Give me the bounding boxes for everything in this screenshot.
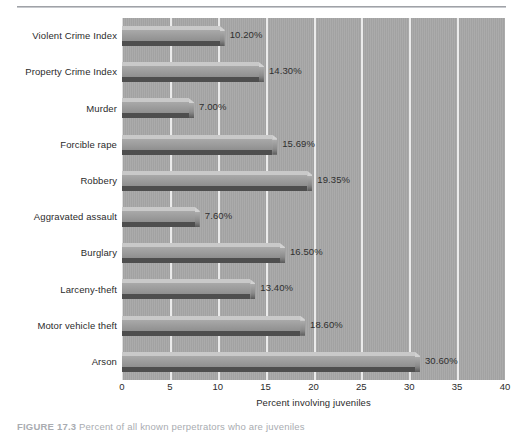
bar-row: 14.30%: [122, 54, 505, 90]
figure-caption-text: Percent of all known perpetrators who ar…: [79, 421, 305, 432]
bar[interactable]: [122, 62, 259, 82]
bar-row: 16.50%: [122, 235, 505, 271]
bar-value-label: 30.60%: [425, 355, 458, 366]
bar-value-label: 18.60%: [310, 319, 343, 330]
category-label-aggravated-assault: Aggravated assault: [0, 211, 117, 222]
bar-value-label: 15.69%: [282, 138, 315, 149]
x-tick-label-40: 40: [500, 381, 511, 392]
bar-value-label: 14.30%: [269, 65, 302, 76]
bar-part-shadow: [122, 41, 220, 46]
bar[interactable]: [122, 243, 280, 263]
bar-row: 15.69%: [122, 127, 505, 163]
bar[interactable]: [122, 352, 415, 372]
x-tick-label-20: 20: [308, 381, 319, 392]
bar-value-label: 7.00%: [199, 101, 226, 112]
bar-part-shadow: [122, 367, 415, 372]
category-label-property-crime-index: Property Crime Index: [0, 66, 117, 77]
bar-row: 30.60%: [122, 344, 505, 380]
category-label-motor-vehicle-theft: Motor vehicle theft: [0, 320, 117, 331]
bar[interactable]: [122, 98, 189, 118]
x-tick-label-10: 10: [212, 381, 223, 392]
bar[interactable]: [122, 171, 307, 191]
figure-caption: FIGURE 17.3 Percent of all known perpetr…: [17, 421, 507, 432]
bar-part-face: [122, 66, 259, 77]
bar-row: 13.40%: [122, 271, 505, 307]
category-label-arson: Arson: [0, 356, 117, 367]
bar-part-face: [122, 175, 307, 186]
bar-part-shadow: [122, 150, 272, 155]
bar-value-label: 19.35%: [317, 174, 350, 185]
bar-part-shadow: [122, 258, 280, 263]
category-label-burglary: Burglary: [0, 247, 117, 258]
bar-part-face: [122, 283, 250, 294]
bar-row: 10.20%: [122, 18, 505, 54]
category-label-robbery: Robbery: [0, 175, 117, 186]
bar-part-face: [122, 320, 300, 331]
bar-part-face: [122, 211, 195, 222]
category-label-larceny-theft: Larceny-theft: [0, 284, 117, 295]
bar[interactable]: [122, 207, 195, 227]
bar-value-label: 7.60%: [205, 210, 232, 221]
x-axis-ticks: 0510152025303540: [122, 381, 505, 397]
x-tick-label-5: 5: [167, 381, 172, 392]
bar-value-label: 16.50%: [290, 246, 323, 257]
bar-value-label: 10.20%: [230, 29, 263, 40]
bar-part-face: [122, 356, 415, 367]
bar-part-shadow: [122, 113, 189, 118]
bar-part-face: [122, 102, 189, 113]
category-label-murder: Murder: [0, 103, 117, 114]
bar[interactable]: [122, 316, 300, 336]
bar[interactable]: [122, 26, 220, 46]
plot-area: 10.20%14.30%7.00%15.69%19.35%7.60%16.50%…: [122, 18, 505, 380]
category-label-forcible-rape: Forcible rape: [0, 139, 117, 150]
category-axis-labels: Violent Crime IndexProperty Crime IndexM…: [0, 18, 117, 380]
bar-rows-group: 10.20%14.30%7.00%15.69%19.35%7.60%16.50%…: [122, 18, 505, 380]
figure-caption-number: FIGURE 17.3: [17, 421, 76, 432]
bar[interactable]: [122, 279, 250, 299]
bar-row: 7.00%: [122, 90, 505, 126]
x-tick-label-0: 0: [119, 381, 124, 392]
x-tick-label-35: 35: [452, 381, 463, 392]
bar-row: 19.35%: [122, 163, 505, 199]
bar-part-shadow: [122, 294, 250, 299]
bar-part-shadow: [122, 186, 307, 191]
bar-part-face: [122, 139, 272, 150]
x-axis-title: Percent involving juveniles: [122, 397, 505, 408]
bar-row: 7.60%: [122, 199, 505, 235]
x-tick-label-30: 30: [404, 381, 415, 392]
bar[interactable]: [122, 135, 272, 155]
bar-part-face: [122, 247, 280, 258]
bar-part-shadow: [122, 222, 195, 227]
x-tick-label-25: 25: [356, 381, 367, 392]
category-label-violent-crime-index: Violent Crime Index: [0, 30, 117, 41]
bar-row: 18.60%: [122, 308, 505, 344]
top-horizontal-rule: [17, 6, 506, 8]
bar-part-shadow: [122, 331, 300, 336]
bar-part-face: [122, 30, 220, 41]
bar-value-label: 13.40%: [260, 282, 293, 293]
x-tick-label-15: 15: [260, 381, 271, 392]
bar-part-shadow: [122, 77, 259, 82]
